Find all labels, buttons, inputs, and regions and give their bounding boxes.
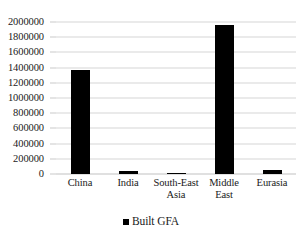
- bar-slot: [104, 22, 152, 174]
- y-axis: 2000000180000016000001400000120000010000…: [0, 22, 50, 174]
- y-tick-label: 0: [39, 169, 44, 180]
- bar-slot: [152, 22, 200, 174]
- x-tick-label: South-East Asia: [152, 177, 200, 200]
- y-tick-label: 400000: [13, 138, 44, 149]
- y-tick-label: 800000: [13, 108, 44, 119]
- bar: [215, 25, 234, 174]
- x-tick-label: Eurasia: [248, 177, 296, 200]
- x-tick-label: India: [104, 177, 152, 200]
- x-axis: ChinaIndiaSouth-East AsiaMiddle EastEura…: [56, 177, 296, 200]
- plot-area: [56, 22, 296, 174]
- bar-slot: [200, 22, 248, 174]
- y-tick-label: 1600000: [8, 47, 44, 58]
- bar: [71, 70, 90, 175]
- bar-chart: 2000000180000016000001400000120000010000…: [0, 0, 302, 238]
- bars: [56, 22, 296, 174]
- bar: [167, 173, 186, 174]
- bar: [119, 171, 138, 174]
- y-tick-label: 2000000: [8, 17, 44, 28]
- x-tick-label: China: [56, 177, 104, 200]
- y-tick-label: 1400000: [8, 62, 44, 73]
- legend-label: Built GFA: [132, 216, 179, 228]
- bar: [263, 170, 282, 174]
- y-tick-label: 1200000: [8, 78, 44, 89]
- legend-swatch-icon: [123, 219, 129, 225]
- chart-legend: Built GFA: [0, 216, 302, 228]
- y-tick-label: 200000: [13, 154, 44, 165]
- x-tick-label: Middle East: [200, 177, 248, 200]
- bar-slot: [56, 22, 104, 174]
- y-tick-label: 1000000: [8, 93, 44, 104]
- y-tick-label: 600000: [13, 123, 44, 134]
- y-tick-label: 1800000: [8, 32, 44, 43]
- bar-slot: [248, 22, 296, 174]
